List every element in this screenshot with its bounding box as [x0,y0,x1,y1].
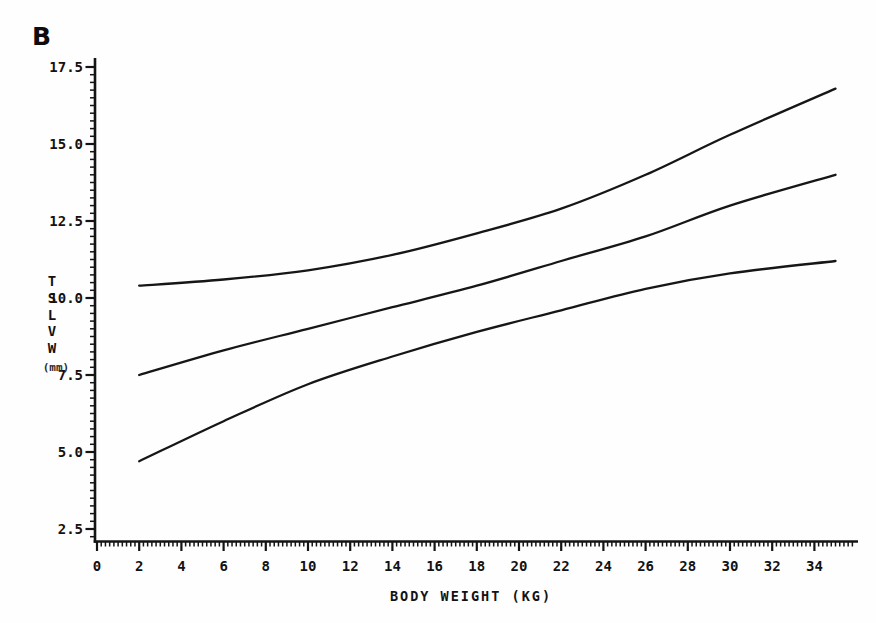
axis-tick-labels: 02468101214161820222426283032342.55.07.5… [49,59,823,574]
y-axis-letter: S [48,290,56,306]
x-tick-label: 2 [135,558,143,574]
y-axis-label: TSLVW(mm) [43,273,70,374]
chart-canvas: 02468101214161820222426283032342.55.07.5… [0,0,876,623]
x-tick-label: 24 [595,558,612,574]
mean-regression-curve [139,175,835,375]
y-axis-letter: L [48,307,56,323]
x-tick-label: 34 [806,558,823,574]
y-tick-label: 2.5 [58,521,83,537]
x-tick-label: 16 [426,558,443,574]
x-tick-label: 28 [679,558,696,574]
x-tick-label: 8 [262,558,270,574]
axis-ticks [86,67,853,551]
y-tick-label: 5.0 [58,444,83,460]
x-tick-label: 20 [511,558,528,574]
x-tick-label: 30 [722,558,739,574]
x-tick-label: 14 [384,558,401,574]
y-tick-label: 12.5 [49,213,83,229]
figure-panel: B 02468101214161820222426283032342.55.07… [0,0,876,623]
x-tick-label: 32 [764,558,781,574]
x-tick-label: 18 [468,558,485,574]
y-tick-label: 15.0 [49,136,83,152]
axes [94,58,858,543]
x-tick-label: 4 [177,558,185,574]
x-tick-label: 0 [93,558,101,574]
y-axis-letter: T [48,273,56,289]
y-axis-letter: V [48,323,57,339]
x-tick-label: 22 [553,558,570,574]
x-axis-title: BODY WEIGHT (KG) [390,588,552,604]
data-series [139,89,835,462]
x-tick-label: 26 [637,558,654,574]
lower-confidence-curve [139,261,835,461]
y-axis-unit: (mm) [43,361,70,374]
y-tick-label: 17.5 [49,59,83,75]
x-tick-label: 6 [219,558,227,574]
x-tick-label: 10 [300,558,317,574]
y-axis-letter: W [48,340,57,356]
upper-confidence-curve [139,89,835,286]
x-tick-label: 12 [342,558,359,574]
